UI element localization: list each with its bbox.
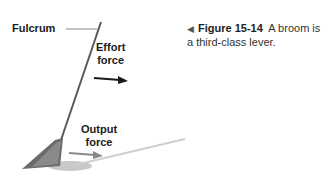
output-arrow-shaft — [69, 153, 95, 155]
output-force-label: Output force — [81, 123, 117, 149]
effort-label-line2: force — [96, 54, 125, 67]
fulcrum-label: Fulcrum — [12, 22, 55, 35]
broom-bristles — [32, 141, 61, 167]
effort-arrow-icon — [118, 76, 128, 84]
effort-label-line1: Effort — [96, 41, 125, 54]
output-label-line1: Output — [81, 123, 117, 136]
output-label-line2: force — [81, 136, 117, 149]
pointer-triangle-icon: ◀ — [187, 24, 194, 34]
effort-arrow-shaft — [94, 78, 120, 80]
figure-caption: ◀Figure 15-14 A broom is a third-class l… — [187, 22, 322, 49]
effort-force-label: Effort force — [96, 41, 125, 67]
figure-number: Figure 15-14 — [198, 22, 263, 34]
